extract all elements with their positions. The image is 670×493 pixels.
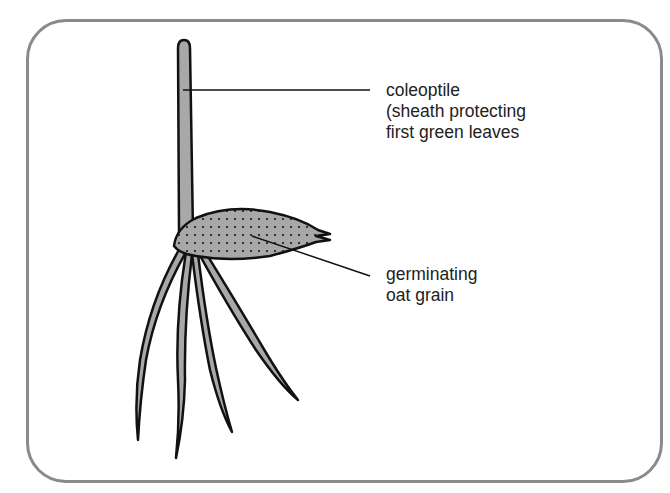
grain-label-line-2: oat grain: [386, 285, 477, 306]
coleoptile-label-line-1: coleoptile: [386, 80, 526, 101]
oat-seedling-illustration: [0, 0, 670, 493]
coleoptile-label: coleoptile (sheath protecting first gree…: [386, 80, 526, 143]
coleoptile-shoot: [178, 40, 193, 232]
coleoptile-label-line-3: first green leaves: [386, 122, 526, 143]
oat-grain: [174, 209, 330, 259]
roots: [136, 248, 298, 458]
grain-label: germinating oat grain: [386, 264, 477, 306]
grain-label-line-1: germinating: [386, 264, 477, 285]
coleoptile-label-line-2: (sheath protecting: [386, 101, 526, 122]
